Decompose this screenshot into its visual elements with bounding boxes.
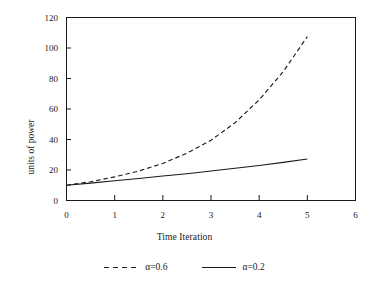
x-axis-label: Time Iteration [0, 232, 369, 242]
y-tick-label: 120 [28, 13, 58, 23]
x-tick-label: 6 [353, 210, 358, 220]
chart-legend: α=0.6α=0.2 [0, 262, 369, 272]
series-line-2 [67, 159, 308, 185]
y-axis-label: units of power [26, 119, 36, 174]
y-tick-label: 100 [28, 43, 58, 53]
x-tick-label: 2 [161, 210, 166, 220]
y-tick-label: 80 [28, 74, 58, 84]
x-tick-label: 0 [64, 210, 69, 220]
legend-solid-swatch [202, 264, 236, 271]
chart-figure: 020406080100120 0123456 Time Iteration u… [0, 0, 369, 293]
legend-label: α=0.2 [243, 262, 265, 272]
legend-dashed-swatch [104, 264, 138, 271]
plot-frame [67, 18, 356, 201]
x-tick-label: 1 [112, 210, 117, 220]
legend-entry: α=0.6 [104, 262, 167, 272]
y-tick-label: 60 [28, 104, 58, 114]
series-line-1 [67, 37, 308, 186]
y-tick-label: 0 [28, 196, 58, 206]
x-tick-label: 5 [305, 210, 310, 220]
legend-entry: α=0.2 [202, 262, 265, 272]
x-tick-label: 4 [257, 210, 262, 220]
x-tick-label: 3 [209, 210, 214, 220]
legend-label: α=0.6 [145, 262, 167, 272]
